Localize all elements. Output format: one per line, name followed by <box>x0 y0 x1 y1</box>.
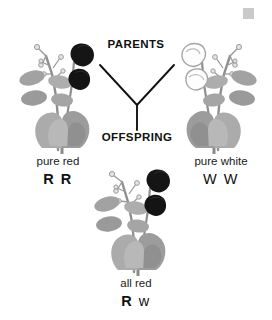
offspring-allele-1: R <box>121 293 133 309</box>
cross-connector-lines <box>96 58 178 132</box>
offspring-label: OFFSPRING <box>90 131 184 143</box>
connector-right-arm <box>137 65 174 105</box>
gray-square-marker <box>243 8 254 19</box>
parents-label: PARENTS <box>96 38 176 50</box>
connector-left-arm <box>100 65 137 105</box>
offspring-plant-illustration <box>84 152 188 276</box>
offspring-genotype: R w <box>84 293 188 309</box>
offspring-allele-2: w <box>139 293 151 309</box>
offspring-phenotype: all red <box>84 277 188 289</box>
genetics-cross-diagram: PARENTS OFFSPRING pure red R R pure whit… <box>0 0 272 320</box>
